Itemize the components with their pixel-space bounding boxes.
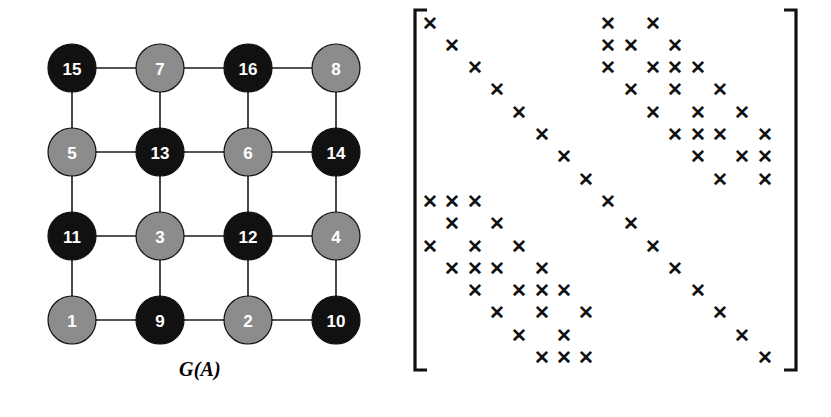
graph-node-2[interactable]: 2 xyxy=(224,296,272,344)
matrix-entry-r12-c3: ✕ xyxy=(467,258,483,279)
matrix-entry-r13-c6: ✕ xyxy=(534,280,550,301)
matrix-entry-r14-c14: ✕ xyxy=(712,302,728,323)
graph-node-16[interactable]: 16 xyxy=(224,44,272,92)
matrix-entry-r14-c6: ✕ xyxy=(534,302,550,323)
graph-node-label: 8 xyxy=(331,60,340,79)
matrix-entry-r16-c6: ✕ xyxy=(534,347,550,368)
matrix-entry-r3-c13: ✕ xyxy=(690,57,706,78)
matrix-entry-r13-c5: ✕ xyxy=(511,280,527,301)
matrix-entry-r6-c14: ✕ xyxy=(712,124,728,145)
matrix-entry-r1-c9: ✕ xyxy=(600,13,616,34)
graph-caption: G(A) xyxy=(0,358,400,381)
matrix-entry-r13-c3: ✕ xyxy=(467,280,483,301)
matrix-entry-r7-c15: ✕ xyxy=(734,146,750,167)
matrix-entry-r4-c4: ✕ xyxy=(489,79,505,100)
graph-node-label: 10 xyxy=(327,312,346,331)
matrix-entry-r6-c12: ✕ xyxy=(667,124,683,145)
matrix-entry-r3-c9: ✕ xyxy=(600,57,616,78)
matrix-entry-r11-c11: ✕ xyxy=(645,236,661,257)
graph-node-label: 4 xyxy=(331,228,341,247)
matrix-entry-r10-c10: ✕ xyxy=(623,213,639,234)
graph-node-3[interactable]: 3 xyxy=(136,212,184,260)
graph-node-11[interactable]: 11 xyxy=(48,212,96,260)
matrix-entry-r4-c10: ✕ xyxy=(623,79,639,100)
matrix-entry-r10-c4: ✕ xyxy=(489,213,505,234)
graph-node-label: 7 xyxy=(155,60,164,79)
graph-node-7[interactable]: 7 xyxy=(136,44,184,92)
matrix-entry-r9-c1: ✕ xyxy=(422,191,438,212)
matrix-entry-r11-c1: ✕ xyxy=(422,236,438,257)
graph-node-15[interactable]: 15 xyxy=(48,44,96,92)
matrix-entry-r5-c11: ✕ xyxy=(645,102,661,123)
graph-node-label: 3 xyxy=(155,228,164,247)
matrix-entry-r15-c5: ✕ xyxy=(511,325,527,346)
matrix-entry-r2-c12: ✕ xyxy=(667,35,683,56)
matrix-entry-r13-c7: ✕ xyxy=(556,280,572,301)
matrix-entry-r9-c3: ✕ xyxy=(467,191,483,212)
graph-node-12[interactable]: 12 xyxy=(224,212,272,260)
matrix-entry-r8-c8: ✕ xyxy=(578,169,594,190)
graph-node-label: 6 xyxy=(243,144,252,163)
graph-node-5[interactable]: 5 xyxy=(48,128,96,176)
graph-node-4[interactable]: 4 xyxy=(312,212,360,260)
matrix-entry-r9-c2: ✕ xyxy=(444,191,460,212)
matrix-entry-r7-c16: ✕ xyxy=(757,146,773,167)
graph-node-label: 5 xyxy=(67,144,76,163)
matrix-entry-r4-c12: ✕ xyxy=(667,79,683,100)
matrix-bracket-right xyxy=(784,10,796,370)
matrix-entry-r12-c6: ✕ xyxy=(534,258,550,279)
matrix-entry-r2-c2: ✕ xyxy=(444,35,460,56)
matrix-entry-r3-c12: ✕ xyxy=(667,57,683,78)
matrix-entry-layer: ✕✕✕✕✕✕✕✕✕✕✕✕✕✕✕✕✕✕✕✕✕✕✕✕✕✕✕✕✕✕✕✕✕✕✕✕✕✕✕✕… xyxy=(422,13,773,369)
matrix-entry-r5-c15: ✕ xyxy=(734,102,750,123)
graph-node-label: 14 xyxy=(327,144,346,163)
graph-node-layer: 15716851361411312419210 xyxy=(48,44,360,344)
matrix-entry-r9-c9: ✕ xyxy=(600,191,616,212)
matrix-entry-r3-c3: ✕ xyxy=(467,57,483,78)
matrix-panel: ✕✕✕✕✕✕✕✕✕✕✕✕✕✕✕✕✕✕✕✕✕✕✕✕✕✕✕✕✕✕✕✕✕✕✕✕✕✕✕✕… xyxy=(400,0,831,417)
matrix-entry-r14-c8: ✕ xyxy=(578,302,594,323)
matrix-entry-r1-c1: ✕ xyxy=(422,13,438,34)
matrix-entry-r2-c9: ✕ xyxy=(600,35,616,56)
graph-node-label: 15 xyxy=(63,60,82,79)
matrix-entry-r12-c2: ✕ xyxy=(444,258,460,279)
matrix-entry-r11-c5: ✕ xyxy=(511,236,527,257)
graph-node-10[interactable]: 10 xyxy=(312,296,360,344)
matrix-entry-r11-c3: ✕ xyxy=(467,236,483,257)
matrix-entry-r15-c7: ✕ xyxy=(556,325,572,346)
graph-node-1[interactable]: 1 xyxy=(48,296,96,344)
matrix-entry-r4-c14: ✕ xyxy=(712,79,728,100)
graph-node-9[interactable]: 9 xyxy=(136,296,184,344)
matrix-diagram: ✕✕✕✕✕✕✕✕✕✕✕✕✕✕✕✕✕✕✕✕✕✕✕✕✕✕✕✕✕✕✕✕✕✕✕✕✕✕✕✕… xyxy=(400,0,831,385)
matrix-entry-r14-c4: ✕ xyxy=(489,302,505,323)
matrix-entry-r16-c7: ✕ xyxy=(556,347,572,368)
graph-edge-layer xyxy=(72,68,336,320)
matrix-entry-r8-c16: ✕ xyxy=(757,169,773,190)
graph-node-label: 1 xyxy=(67,312,76,331)
matrix-caption: A xyxy=(800,368,831,391)
matrix-entry-r5-c13: ✕ xyxy=(690,102,706,123)
matrix-entry-r12-c12: ✕ xyxy=(667,258,683,279)
matrix-entry-r15-c15: ✕ xyxy=(734,325,750,346)
matrix-entry-r1-c11: ✕ xyxy=(645,13,661,34)
matrix-entry-r10-c2: ✕ xyxy=(444,213,460,234)
matrix-entry-r3-c11: ✕ xyxy=(645,57,661,78)
matrix-entry-r6-c16: ✕ xyxy=(757,124,773,145)
matrix-entry-r6-c13: ✕ xyxy=(690,124,706,145)
graph-node-label: 16 xyxy=(239,60,258,79)
matrix-entry-r7-c13: ✕ xyxy=(690,146,706,167)
graph-node-6[interactable]: 6 xyxy=(224,128,272,176)
matrix-entry-r16-c8: ✕ xyxy=(578,347,594,368)
graph-node-label: 13 xyxy=(151,144,170,163)
graph-node-13[interactable]: 13 xyxy=(136,128,184,176)
matrix-entry-r7-c7: ✕ xyxy=(556,146,572,167)
matrix-entry-r8-c14: ✕ xyxy=(712,169,728,190)
matrix-entry-r2-c10: ✕ xyxy=(623,35,639,56)
figure-root: 15716851361411312419210 G(A) ✕✕✕✕✕✕✕✕✕✕✕… xyxy=(0,0,831,417)
graph-node-8[interactable]: 8 xyxy=(312,44,360,92)
graph-node-14[interactable]: 14 xyxy=(312,128,360,176)
graph-diagram: 15716851361411312419210 xyxy=(0,0,400,360)
matrix-entry-r12-c4: ✕ xyxy=(489,258,505,279)
matrix-entry-r5-c5: ✕ xyxy=(511,102,527,123)
matrix-entry-r13-c13: ✕ xyxy=(690,280,706,301)
